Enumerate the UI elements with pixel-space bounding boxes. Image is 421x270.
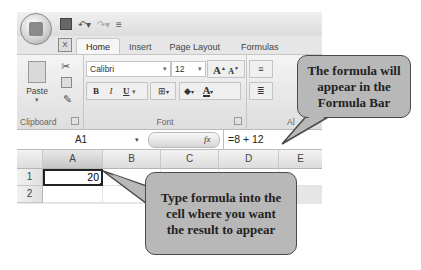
callout-cell-text: Type formula into the cell where you wan… [146, 190, 296, 238]
callout-cell-note: Type formula into the cell where you wan… [145, 172, 297, 255]
